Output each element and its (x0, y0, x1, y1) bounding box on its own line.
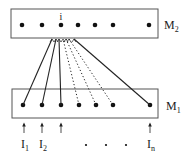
node-m2 (111, 23, 116, 28)
arrow-up-icon (148, 123, 152, 127)
neural-layer-diagram: i I1I2In M2 M1 (0, 0, 191, 155)
connections (23, 39, 150, 105)
ellipsis-dot (105, 144, 107, 146)
arrow-up-icon (59, 123, 63, 127)
arrow-up-icon (40, 123, 44, 127)
layer-m2-box (11, 9, 158, 38)
input-label: In (147, 137, 155, 153)
input-label: I1 (21, 137, 29, 153)
connection-solid (59, 39, 61, 105)
inputs: I1I2In (21, 123, 155, 154)
layer-m2-label: M2 (164, 18, 179, 34)
ellipsis-dot (125, 144, 127, 146)
arrowhead-icon (72, 39, 76, 42)
node-m2 (59, 23, 64, 28)
input-label: I2 (39, 137, 47, 153)
node-m2 (20, 23, 25, 28)
connection-solid (74, 39, 150, 105)
node-m2 (40, 23, 45, 28)
connection-solid (23, 39, 52, 105)
node-m2 (147, 23, 152, 28)
arrowhead-icon (67, 39, 71, 42)
arrow-up-icon (22, 123, 26, 127)
connection-solid (42, 39, 56, 105)
ellipsis-dot (85, 144, 87, 146)
node-m2 (93, 23, 98, 28)
node-m2 (76, 23, 81, 28)
node-i-label: i (60, 11, 63, 22)
layer-m1-label: M1 (166, 99, 181, 115)
layer-m2: i (11, 9, 158, 38)
arrowhead-icon (50, 39, 54, 42)
